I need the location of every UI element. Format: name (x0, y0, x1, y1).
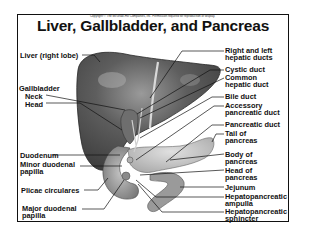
label-major-duodenal-papilla: Major duodenal papilla (22, 205, 77, 219)
jejunum-shape (148, 172, 185, 211)
label-common-hepatic-duct: Common hepatic duct (225, 74, 269, 88)
label-jejunum: Jejunum (225, 184, 255, 191)
label-duodenum: Duodenum (20, 152, 59, 159)
label-right-left-hepatic-ducts: Right and left hepatic ducts (225, 47, 273, 61)
label-pancreatic-duct: Pancreatic duct (225, 121, 280, 128)
label-bile-duct: Bile duct (225, 93, 256, 100)
label-tail-of-pancreas: Tail of pancreas (225, 130, 257, 144)
label-body-of-pancreas: Body of pancreas (225, 151, 257, 165)
pancreas-shape (128, 138, 214, 173)
label-head: Head (25, 101, 43, 108)
label-head-of-pancreas: Head of pancreas (225, 167, 257, 181)
label-minor-duodenal-papilla: Minor duodenal papilla (20, 161, 75, 175)
label-liver-right-lobe: Liver (right lobe) (20, 52, 78, 59)
label-hepatopancreatic-sphincter: Hepatopancreatic sphincter (225, 208, 287, 222)
label-hepatopancreatic-ampulla: Hepatopancreatic ampulla (225, 193, 287, 207)
label-plicae-circulares: Plicae circulares (21, 187, 79, 194)
label-accessory-pancreatic-duct: Accessory pancreatic duct (225, 102, 280, 116)
